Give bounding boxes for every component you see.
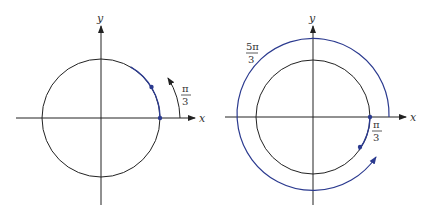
left-figure: x y π 3 bbox=[16, 12, 206, 205]
left-start-point bbox=[158, 116, 162, 120]
right-start-point bbox=[368, 115, 372, 119]
left-end-point bbox=[149, 85, 153, 89]
left-angle-numerator: π bbox=[182, 83, 189, 94]
right-outer-denominator: 3 bbox=[248, 54, 254, 65]
right-y-label: y bbox=[308, 12, 316, 25]
right-figure: x y 5π 3 π 3 bbox=[225, 12, 417, 205]
right-x-label: x bbox=[410, 111, 417, 124]
left-rotation-arrow bbox=[168, 78, 180, 118]
left-angle-arc bbox=[131, 67, 161, 118]
diagram-canvas: x y π 3 x y 5π 3 π 3 bbox=[0, 0, 430, 215]
right-inner-denominator: 3 bbox=[373, 132, 379, 143]
right-end-point bbox=[358, 145, 362, 149]
left-y-label: y bbox=[96, 12, 104, 25]
right-outer-numerator: 5π bbox=[246, 41, 259, 52]
right-inner-numerator: π bbox=[373, 119, 380, 130]
left-angle-denominator: 3 bbox=[182, 96, 188, 107]
left-x-label: x bbox=[199, 112, 206, 125]
